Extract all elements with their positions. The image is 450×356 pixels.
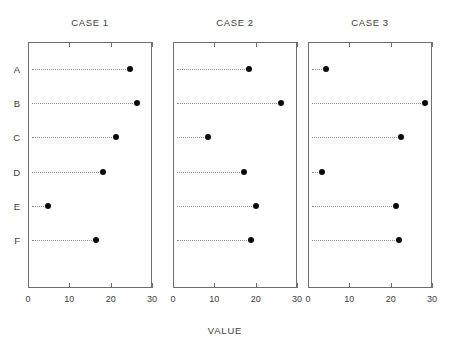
data-point-case-2-B (278, 100, 284, 106)
leader-line-case-2-D (177, 172, 240, 174)
row-label-C: C (13, 132, 20, 143)
xtick-top-0-case-1 (28, 42, 29, 47)
xtick-bottom-30-case-1 (152, 283, 153, 288)
data-point-case-3-B (422, 100, 428, 106)
data-point-case-2-A (246, 66, 252, 72)
xtick-bottom-10-case-3 (349, 283, 350, 288)
xtick-top-10-case-1 (69, 42, 70, 47)
xtick-bottom-0-case-1 (28, 283, 29, 288)
xtick-label-10-case-2: 10 (209, 294, 219, 304)
xtick-top-0-case-3 (308, 42, 309, 47)
leader-line-case-3-C (312, 137, 397, 139)
xtick-top-20-case-1 (111, 42, 112, 47)
data-point-case-3-A (323, 66, 329, 72)
xtick-top-10-case-3 (349, 42, 350, 47)
xtick-label-0-case-1: 0 (25, 294, 30, 304)
xtick-top-20-case-3 (391, 42, 392, 47)
row-label-D: D (13, 167, 20, 178)
row-label-A: A (14, 64, 20, 75)
xtick-bottom-20-case-1 (111, 283, 112, 288)
leader-line-case-3-B (312, 103, 421, 105)
leader-line-case-2-E (177, 206, 252, 208)
xtick-top-20-case-2 (256, 42, 257, 47)
data-point-case-3-F (396, 237, 402, 243)
leader-line-case-3-F (312, 240, 395, 242)
panel-frame-case-3 (308, 42, 432, 288)
xtick-top-30-case-1 (152, 42, 153, 47)
row-label-B: B (14, 98, 20, 109)
row-label-F: F (14, 235, 20, 246)
xtick-top-30-case-3 (432, 42, 433, 47)
xtick-label-0-case-3: 0 (305, 294, 310, 304)
data-point-case-1-B (134, 100, 140, 106)
xtick-label-10-case-3: 10 (344, 294, 354, 304)
leader-line-case-1-C (32, 137, 112, 139)
data-point-case-2-F (248, 237, 254, 243)
data-point-case-1-A (127, 66, 133, 72)
xtick-bottom-30-case-3 (432, 283, 433, 288)
leader-line-case-3-A (312, 69, 322, 71)
data-point-case-1-D (100, 169, 106, 175)
data-point-case-3-D (319, 169, 325, 175)
data-point-case-1-C (113, 134, 119, 140)
panel-title-case-2: CASE 2 (216, 17, 253, 28)
xtick-label-10-case-1: 10 (64, 294, 74, 304)
panel-title-case-1: CASE 1 (71, 17, 108, 28)
xtick-label-30-case-3: 30 (427, 294, 437, 304)
leader-line-case-1-E (32, 206, 44, 208)
x-axis-title: VALUE (208, 325, 242, 336)
leader-line-case-3-E (312, 206, 392, 208)
data-point-case-2-E (253, 203, 259, 209)
xtick-bottom-20-case-3 (391, 283, 392, 288)
xtick-bottom-0-case-2 (173, 283, 174, 288)
data-point-case-3-C (398, 134, 404, 140)
xtick-label-20-case-3: 20 (386, 294, 396, 304)
xtick-bottom-30-case-2 (297, 283, 298, 288)
xtick-bottom-20-case-2 (256, 283, 257, 288)
xtick-top-0-case-2 (173, 42, 174, 47)
xtick-label-20-case-1: 20 (106, 294, 116, 304)
data-point-case-1-F (93, 237, 99, 243)
leader-line-case-1-B (32, 103, 133, 105)
xtick-label-0-case-2: 0 (170, 294, 175, 304)
data-point-case-2-D (241, 169, 247, 175)
leader-line-case-2-B (177, 103, 277, 105)
panel-frame-case-2 (173, 42, 297, 288)
row-label-E: E (14, 201, 20, 212)
xtick-top-30-case-2 (297, 42, 298, 47)
xtick-bottom-10-case-2 (214, 283, 215, 288)
dot-plot-figure: CASE 10102030ABCDEFCASE 20102030CASE 301… (0, 0, 450, 356)
leader-line-case-2-C (177, 137, 204, 139)
leader-line-case-3-D (312, 172, 318, 174)
data-point-case-1-E (45, 203, 51, 209)
leader-line-case-2-F (177, 240, 247, 242)
panel-title-case-3: CASE 3 (351, 17, 388, 28)
xtick-bottom-10-case-1 (69, 283, 70, 288)
leader-line-case-1-D (32, 172, 99, 174)
xtick-label-30-case-1: 30 (147, 294, 157, 304)
leader-line-case-1-F (32, 240, 92, 242)
leader-line-case-1-A (32, 69, 126, 71)
leader-line-case-2-A (177, 69, 245, 71)
xtick-top-10-case-2 (214, 42, 215, 47)
xtick-label-20-case-2: 20 (251, 294, 261, 304)
xtick-label-30-case-2: 30 (292, 294, 302, 304)
panel-frame-case-1 (28, 42, 152, 288)
xtick-bottom-0-case-3 (308, 283, 309, 288)
data-point-case-3-E (393, 203, 399, 209)
data-point-case-2-C (205, 134, 211, 140)
